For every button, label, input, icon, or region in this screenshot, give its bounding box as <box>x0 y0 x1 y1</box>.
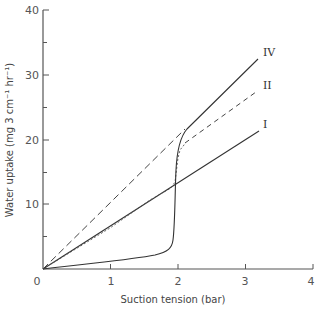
chart: 40 30 20 10 0 1 2 3 4 Suction tension (b… <box>0 0 316 309</box>
y-axis-title: Water uptake (mg 3 cm⁻¹ hr⁻¹) <box>4 63 15 217</box>
x-axis-title: Suction tension (bar) <box>121 294 226 305</box>
series-II-dotted <box>43 143 185 269</box>
y-tick-label-40: 40 <box>25 4 39 17</box>
x-ticks <box>111 264 314 269</box>
series-I <box>43 131 259 269</box>
y-ticks <box>43 10 49 237</box>
x-tick-label-3: 3 <box>242 275 249 288</box>
label-IV: IV <box>263 46 276 59</box>
x-tick-label-2: 2 <box>175 275 182 288</box>
label-I: I <box>263 118 267 131</box>
x-tick-label-1: 1 <box>108 275 115 288</box>
series-II-dashed <box>185 92 256 143</box>
y-tick-label-30: 30 <box>25 69 39 82</box>
x-tick-label-4: 4 <box>308 275 315 288</box>
series-long-dash <box>43 129 185 269</box>
x-tick-label-0: 0 <box>34 275 41 288</box>
y-tick-label-20: 20 <box>25 134 39 147</box>
label-II: II <box>263 79 272 92</box>
y-tick-label-10: 10 <box>25 198 39 211</box>
